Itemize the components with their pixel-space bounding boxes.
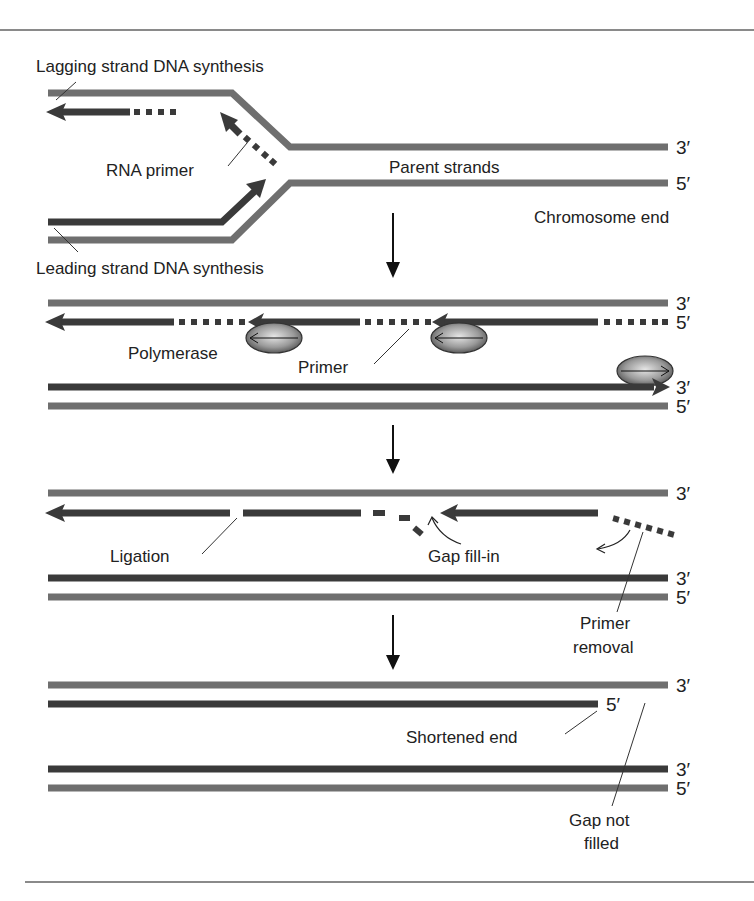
end-label-5prime-short: 5′ [606, 694, 621, 715]
end-label-3prime-2: 3′ [676, 377, 691, 398]
leading-strand [48, 190, 256, 222]
end-label-5prime-2: 5′ [676, 396, 691, 417]
rna-primer-label: RNA primer [106, 161, 194, 180]
polymerase-1 [246, 323, 302, 353]
end-label-5prime-2: 5′ [676, 587, 691, 608]
parent-strands-label: Parent strands [389, 158, 500, 177]
primer-removal-label-line1: Primer [580, 614, 630, 633]
lagging-strand-label: Lagging strand DNA synthesis [36, 57, 264, 76]
end-label-5prime-1: 5′ [676, 312, 691, 333]
end-label-3prime-1: 3′ [676, 675, 691, 696]
gap-not-filled-label-line1: Gap not [569, 811, 630, 830]
shortened-end-label: Shortened end [406, 728, 518, 747]
end-label-3prime-1: 3′ [676, 293, 691, 314]
gap-not-filled-label-line2: filled [584, 834, 619, 853]
step-arrow-3-head [386, 655, 400, 670]
panel-polymerase: Polymerase Primer 3′ 5′ 3′ 5′ [45, 293, 691, 474]
polymerase-3 [617, 356, 673, 386]
panel-ligation: Ligation Gap fill-in Primer removal 3′ 3… [45, 483, 691, 670]
primer-remnant-1 [373, 510, 385, 516]
removed-primer-dots [612, 515, 674, 537]
replication-diagram: Lagging strand DNA synthesis RNA primer … [0, 0, 754, 901]
end-label-5prime: 5′ [676, 173, 691, 194]
primer-remnant-2 [399, 515, 410, 521]
primer-dots-3 [604, 319, 668, 325]
step-arrow-2-head [386, 459, 400, 474]
shortened-end-leader [565, 711, 597, 734]
primer-dots-2 [365, 319, 431, 325]
ligation-leader [202, 518, 237, 554]
rna-primer-dots [243, 135, 277, 166]
primer-dots-1 [179, 319, 245, 325]
rna-primer-leader [228, 143, 247, 166]
end-label-3prime-1: 3′ [676, 483, 691, 504]
primer-label: Primer [298, 358, 348, 377]
gap-fill-label: Gap fill-in [428, 547, 500, 566]
leading-strand-label: Leading strand DNA synthesis [36, 259, 264, 278]
primer-remnant-3 [412, 525, 424, 536]
primer-removal-curved-arrow [598, 530, 630, 549]
primer-removal-label-line2: removal [573, 638, 633, 657]
panel-shortened-end: 3′ 5′ 3′ 5′ Shortened end Gap not filled [48, 675, 691, 853]
end-label-3prime-2: 3′ [676, 568, 691, 589]
primer-leader [374, 329, 409, 364]
parent-strand-top [48, 93, 668, 147]
step-arrow-1-head [386, 262, 400, 278]
polymerase-label: Polymerase [128, 344, 218, 363]
end-label-3prime-2: 3′ [676, 759, 691, 780]
end-label-3prime: 3′ [676, 137, 691, 158]
ligation-label: Ligation [110, 547, 170, 566]
panel-replication-fork: Lagging strand DNA synthesis RNA primer … [36, 57, 691, 278]
polymerase-2 [431, 323, 487, 353]
end-label-5prime-2: 5′ [676, 778, 691, 799]
chromosome-end-label: Chromosome end [534, 208, 669, 227]
lagging-primer-dots [134, 109, 176, 115]
